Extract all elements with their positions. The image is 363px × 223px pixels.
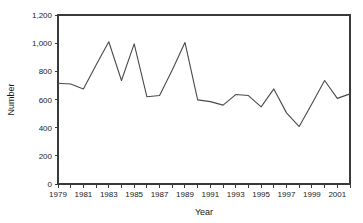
y-axis-title: Number [6,83,16,115]
y-tick-label: 400 [39,124,53,133]
x-tick-label: 1983 [100,190,118,199]
y-tick-label: 1,200 [32,11,53,20]
x-tick-label: 1985 [125,190,143,199]
x-tick-label: 1979 [49,190,67,199]
x-tick-label: 2001 [328,190,346,199]
x-tick-label: 1989 [176,190,194,199]
y-tick-label: 600 [39,96,53,105]
y-tick-label: 0 [48,180,53,189]
y-tick-label: 200 [39,152,53,161]
chart-container: 02004006008001,0001,200 1979198119831985… [0,0,363,223]
x-tick-label: 1995 [252,190,270,199]
line-chart: 02004006008001,0001,200 1979198119831985… [0,0,363,223]
x-tick-label: 1987 [151,190,169,199]
x-tick-label: 1993 [227,190,245,199]
y-tick-label: 1,000 [32,39,53,48]
x-tick-label: 1997 [278,190,296,199]
x-tick-label: 1999 [303,190,321,199]
x-tick-label: 1981 [74,190,92,199]
x-tick-label: 1991 [201,190,219,199]
x-axis-title: Year [195,207,213,217]
y-tick-label: 800 [39,67,53,76]
